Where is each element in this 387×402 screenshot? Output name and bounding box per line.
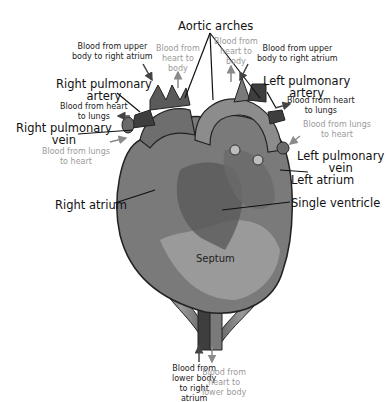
label-line: Blood from xyxy=(202,368,246,378)
label-left-atrium: Left atrium xyxy=(291,174,354,186)
flow-label-heart-to-lower-body: Blood from heart to lower body xyxy=(202,368,246,398)
flow-label-heart-to-body-right: Blood from heart to body xyxy=(214,37,258,67)
label-line: Blood from xyxy=(214,37,258,47)
label-line: vein xyxy=(16,134,112,146)
label-line: Blood from upper xyxy=(72,42,153,52)
label-line: heart to xyxy=(202,378,246,388)
flow-label-lungs-to-heart-right: Blood from lungs to heart xyxy=(303,120,371,140)
flow-label-heart-to-body-left: Blood from heart to body xyxy=(156,44,200,74)
heart-body xyxy=(117,115,292,313)
label-line: to lungs xyxy=(60,112,128,122)
label-line: Blood from upper xyxy=(257,44,338,54)
label-line: to heart xyxy=(303,130,371,140)
label-line: body xyxy=(214,57,258,67)
flow-label-lungs-to-heart-left: Blood from lungs to heart xyxy=(42,147,110,167)
label-aortic-arches: Aortic arches xyxy=(178,20,253,32)
label-right-pulmonary-vein: Right pulmonary vein xyxy=(16,122,112,146)
flow-label-upper-body-right: Blood from upper body to right atrium xyxy=(257,44,338,64)
label-line: Blood from heart xyxy=(60,102,128,112)
label-line: to heart xyxy=(42,157,110,167)
label-left-pulmonary-vein: Left pulmonary vein xyxy=(297,150,384,174)
label-line: Blood from lungs xyxy=(42,147,110,157)
label-line: lower body xyxy=(202,388,246,398)
label-line: body xyxy=(156,64,200,74)
label-line: body to right atrium xyxy=(257,54,338,64)
label-single-ventricle: Single ventricle xyxy=(291,197,380,209)
label-line: Blood from heart xyxy=(287,96,355,106)
label-right-atrium: Right atrium xyxy=(55,199,127,211)
flow-label-heart-to-lungs-right: Blood from heart to lungs xyxy=(287,96,355,116)
label-line: Blood from xyxy=(156,44,200,54)
label-line: to lungs xyxy=(287,106,355,116)
label-line: body to right atrium xyxy=(72,52,153,62)
label-line: heart to xyxy=(156,54,200,64)
label-septum: Septum xyxy=(196,254,235,265)
label-line: artery xyxy=(56,90,152,102)
flow-label-upper-body-left: Blood from upper body to right atrium xyxy=(72,42,153,62)
label-right-pulmonary-artery: Right pulmonary artery xyxy=(56,78,152,102)
label-line: heart to xyxy=(214,47,258,57)
label-line: Blood from lungs xyxy=(303,120,371,130)
heart-diagram: Aortic arches Right pulmonary artery Lef… xyxy=(0,0,387,402)
flow-label-heart-to-lungs-left: Blood from heart to lungs xyxy=(60,102,128,122)
